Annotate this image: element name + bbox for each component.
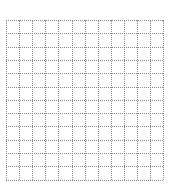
dotted-grid xyxy=(6,20,163,180)
grid-horizontal-line xyxy=(6,87,163,88)
grid-horizontal-line xyxy=(6,140,163,141)
grid-horizontal-line xyxy=(6,33,163,34)
grid-horizontal-line xyxy=(6,60,163,61)
grid-horizontal-line xyxy=(6,153,163,154)
grid-horizontal-line xyxy=(6,166,163,167)
grid-horizontal-line xyxy=(6,126,163,127)
grid-horizontal-line xyxy=(6,100,163,101)
grid-horizontal-line xyxy=(6,73,163,74)
grid-horizontal-line xyxy=(6,47,163,48)
grid-horizontal-line xyxy=(6,180,163,181)
grid-horizontal-line xyxy=(6,113,163,114)
grid-horizontal-line xyxy=(6,20,163,21)
